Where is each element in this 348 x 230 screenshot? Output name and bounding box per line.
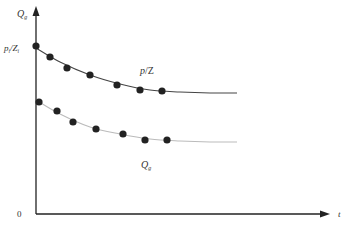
x-axis-arrow-icon	[320, 211, 330, 218]
data-point-marker	[113, 81, 120, 88]
y-axis-arrow-icon	[33, 6, 40, 16]
chart-canvas: Qg 0 t pi/Zi p/Z Qg	[0, 0, 348, 230]
x-axis-label: t	[338, 209, 341, 219]
data-point-marker	[119, 130, 126, 137]
data-point-marker	[35, 98, 42, 105]
pz-curve-label: p/Z	[139, 65, 154, 76]
qg-curve	[36, 100, 237, 142]
data-point-marker	[53, 107, 60, 114]
qg-curve-label: Qg	[141, 159, 151, 171]
intercept-label: pi/Zi	[3, 43, 20, 54]
data-point-marker	[141, 136, 148, 143]
data-point-marker	[63, 64, 70, 71]
data-point-marker	[163, 136, 170, 143]
y-axis-label: Qg	[17, 8, 27, 20]
data-point-marker	[136, 86, 143, 93]
origin-label: 0	[17, 209, 22, 219]
data-point-marker	[46, 53, 53, 60]
data-point-marker	[69, 118, 76, 125]
data-point-marker	[158, 87, 165, 94]
qg-markers	[35, 98, 170, 143]
data-point-marker	[92, 125, 99, 132]
data-point-marker	[86, 71, 93, 78]
data-point-marker	[32, 42, 39, 49]
